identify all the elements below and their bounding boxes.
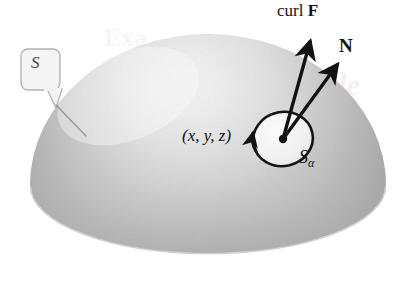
- patch-label: Sα: [299, 148, 314, 169]
- curl-f-label: curl F: [277, 2, 318, 19]
- callout-box: [21, 49, 60, 90]
- curl-f-prefix: curl: [277, 1, 308, 20]
- surface-label: S: [31, 54, 40, 71]
- point-coordinates-label: (x, y, z): [182, 127, 231, 144]
- patch-symbol: S: [299, 147, 308, 167]
- normal-vector-label: N: [339, 36, 353, 55]
- figure-container: mple Exa: [0, 0, 412, 300]
- patch-subscript: α: [308, 156, 314, 170]
- callout-tail-join: [44, 89, 61, 90]
- curl-f-vector-symbol: F: [308, 1, 319, 20]
